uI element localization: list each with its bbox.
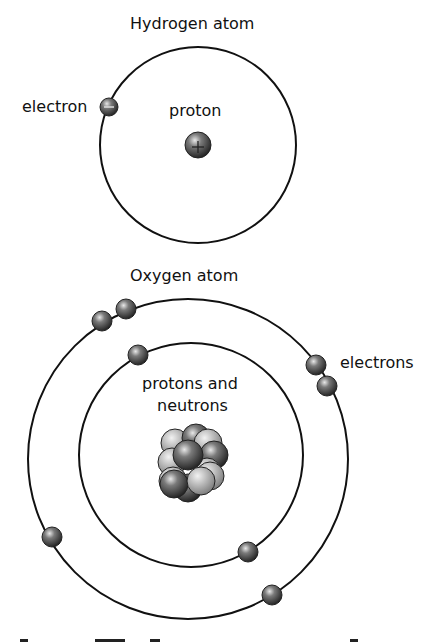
electron-label: electron — [22, 99, 87, 115]
oxygen-title: Oxygen atom — [130, 268, 238, 284]
proton-label: proton — [169, 103, 221, 119]
electrons-label: electrons — [340, 355, 414, 371]
hydrogen-proton — [185, 132, 211, 158]
hydrogen-electron — [100, 98, 118, 116]
oxygen-nucleus — [158, 424, 228, 502]
hydrogen-atom — [100, 47, 296, 243]
oxygen-atom — [28, 299, 348, 619]
hydrogen-title: Hydrogen atom — [130, 16, 254, 32]
nucleus-label-line1: protons and — [142, 376, 238, 392]
nucleus-label-line2: neutrons — [157, 398, 228, 414]
